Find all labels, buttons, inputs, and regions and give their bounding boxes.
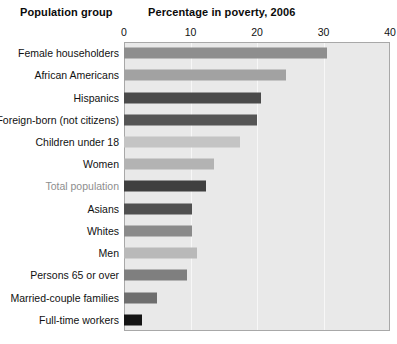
column-header-population-group: Population group — [20, 6, 113, 18]
poverty-bar-chart: Population group Percentage in poverty, … — [0, 0, 397, 344]
bar — [124, 92, 261, 103]
chart-title: Percentage in poverty, 2006 — [148, 6, 295, 18]
bar-row: Total population — [0, 175, 397, 197]
bar-row: Hispanics — [0, 86, 397, 108]
bar-row: Asians — [0, 198, 397, 220]
bar — [124, 270, 187, 281]
bar — [124, 159, 214, 170]
x-tick-30: 30 — [318, 26, 330, 38]
bar-row: Children under 18 — [0, 131, 397, 153]
bar — [124, 137, 240, 148]
bar-row: Full-time workers — [0, 309, 397, 331]
category-label: Hispanics — [73, 92, 119, 104]
x-tick-0: 0 — [121, 26, 127, 38]
bar — [124, 314, 142, 325]
category-label: Persons 65 or over — [30, 269, 119, 281]
bar — [124, 48, 327, 59]
bar — [124, 114, 257, 125]
category-label: Women — [83, 158, 119, 170]
bar-row: Female householders — [0, 42, 397, 64]
x-axis-ticks: 010203040 — [0, 26, 397, 42]
x-tick-40: 40 — [384, 26, 396, 38]
category-label: African Americans — [34, 69, 119, 81]
bar — [124, 181, 206, 192]
category-label: Full-time workers — [39, 314, 119, 326]
category-label: Female householders — [18, 47, 119, 59]
x-tick-10: 10 — [185, 26, 197, 38]
bar-row: Persons 65 or over — [0, 264, 397, 286]
bar-row: Foreign-born (not citizens) — [0, 109, 397, 131]
bar-row: Married-couple families — [0, 287, 397, 309]
category-label: Married-couple families — [10, 292, 119, 304]
category-label: Children under 18 — [36, 136, 119, 148]
category-label: Men — [99, 247, 119, 259]
category-label: Total population — [45, 180, 119, 192]
category-label: Asians — [87, 203, 119, 215]
bar — [124, 225, 192, 236]
bar — [124, 292, 157, 303]
category-label: Whites — [87, 225, 119, 237]
bar — [124, 248, 197, 259]
bar-row: Whites — [0, 220, 397, 242]
bar — [124, 70, 286, 81]
bar-row: African Americans — [0, 64, 397, 86]
x-tick-20: 20 — [251, 26, 263, 38]
bar — [124, 203, 192, 214]
bar-row: Women — [0, 153, 397, 175]
bar-row: Men — [0, 242, 397, 264]
category-label: Foreign-born (not citizens) — [0, 114, 119, 126]
